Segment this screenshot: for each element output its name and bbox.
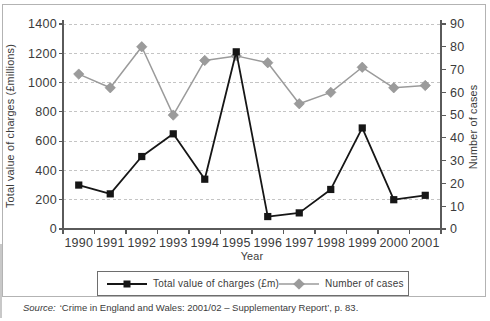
scan-edge-artifact — [0, 244, 2, 318]
x-tick-label: 2000 — [379, 236, 408, 250]
legend-marker-square-icon — [107, 278, 147, 290]
y-right-tick-label: 20 — [450, 177, 465, 191]
y-right-tick-label: 10 — [450, 200, 465, 214]
data-point-square — [138, 153, 145, 160]
x-tick-label: 2001 — [411, 236, 440, 250]
left-axis-title: Total value of charges (£millions) — [4, 44, 16, 208]
data-point-square — [296, 209, 303, 216]
y-left-tick-label: 1000 — [28, 76, 57, 90]
y-right-tick-label: 50 — [450, 108, 465, 122]
y-right-tick-label: 80 — [450, 40, 465, 54]
data-point-square — [422, 192, 429, 199]
data-point-square — [233, 48, 240, 55]
x-tick-label: 1999 — [348, 236, 377, 250]
data-point-diamond — [200, 55, 210, 65]
series-line-cases — [79, 47, 426, 115]
line-chart: Total value of charges (£millions) Numbe… — [0, 0, 490, 266]
data-point-diamond — [74, 69, 84, 79]
x-tick-label: 1998 — [316, 236, 345, 250]
y-right-tick-label: 40 — [450, 131, 465, 145]
legend-item-cases: Number of cases — [279, 278, 404, 290]
y-left-tick-label: 400 — [35, 164, 57, 178]
y-left-tick-label: 1200 — [28, 47, 57, 61]
y-left-tick-label: 200 — [35, 193, 57, 207]
source-text: ‘Crime in England and Wales: 2001/02 – S… — [60, 302, 359, 313]
y-left-tick-label: 1400 — [28, 17, 57, 31]
x-tick-label: 1992 — [127, 236, 156, 250]
data-point-square — [327, 186, 334, 193]
x-tick-label: 1993 — [159, 236, 188, 250]
y-right-tick-label: 30 — [450, 154, 465, 168]
y-left-tick-label: 600 — [35, 134, 57, 148]
right-axis-title: Number of cases — [467, 84, 479, 169]
data-point-square — [359, 124, 366, 131]
x-tick-label: 1996 — [253, 236, 282, 250]
legend-item-charges: Total value of charges (£m) — [107, 278, 279, 290]
y-left-tick-label: 0 — [50, 222, 57, 236]
series-line-charges — [79, 52, 426, 217]
data-point-diamond — [420, 80, 430, 90]
source-prefix: Source: — [23, 302, 56, 313]
y-right-tick-label: 0 — [450, 222, 457, 236]
data-point-square — [390, 196, 397, 203]
data-point-square — [107, 190, 114, 197]
data-point-square — [201, 176, 208, 183]
x-tick-label: 1994 — [190, 236, 219, 250]
chart-figure: Total value of charges (£millions) Numbe… — [0, 0, 490, 321]
legend: Total value of charges (£m) Number of ca… — [97, 271, 409, 296]
x-tick-label: 1991 — [96, 236, 125, 250]
x-tick-label: 1990 — [64, 236, 93, 250]
y-left-tick-label: 800 — [35, 105, 57, 119]
data-point-square — [264, 213, 271, 220]
x-tick-label: 1995 — [222, 236, 251, 250]
x-axis-title: Year — [241, 250, 264, 262]
data-point-square — [75, 181, 82, 188]
y-right-tick-label: 90 — [450, 17, 465, 31]
y-right-tick-label: 70 — [450, 63, 465, 77]
data-point-diamond — [389, 83, 399, 93]
data-point-square — [170, 130, 177, 137]
legend-marker-diamond-icon — [279, 278, 319, 290]
x-tick-label: 1997 — [285, 236, 314, 250]
legend-label-charges: Total value of charges (£m) — [153, 278, 279, 289]
legend-label-cases: Number of cases — [325, 278, 404, 289]
y-right-tick-label: 60 — [450, 86, 465, 100]
source-note: Source:‘Crime in England and Wales: 2001… — [23, 302, 358, 313]
